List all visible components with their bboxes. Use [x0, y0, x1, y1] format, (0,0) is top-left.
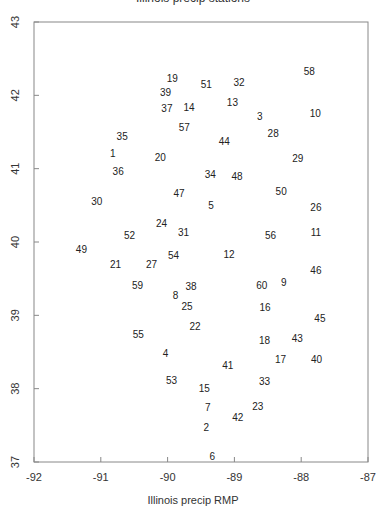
station-labels: 5819513239133714310572835441202936344847… — [76, 66, 326, 462]
station-label: 55 — [133, 329, 145, 340]
y-tick-label: 40 — [9, 236, 21, 248]
scatter-plot: -92-91-90-89-88-87 37383940414243 581951… — [0, 0, 386, 516]
station-label: 3 — [257, 111, 263, 122]
station-label: 46 — [310, 265, 322, 276]
station-label: 20 — [155, 152, 167, 163]
station-label: 52 — [124, 230, 136, 241]
station-label: 31 — [178, 227, 190, 238]
station-label: 30 — [91, 196, 103, 207]
station-label: 9 — [281, 277, 287, 288]
station-label: 40 — [311, 354, 323, 365]
station-label: 24 — [156, 218, 168, 229]
station-label: 53 — [166, 375, 178, 386]
y-tick-label: 39 — [9, 309, 21, 321]
station-label: 49 — [76, 244, 88, 255]
station-label: 59 — [132, 280, 144, 291]
station-label: 44 — [219, 136, 231, 147]
x-tick-label: -87 — [360, 471, 376, 483]
station-label: 41 — [222, 360, 234, 371]
station-label: 38 — [185, 281, 197, 292]
station-label: 8 — [173, 290, 179, 301]
station-label: 57 — [179, 122, 191, 133]
station-label: 1 — [110, 148, 116, 159]
station-label: 6 — [210, 451, 216, 462]
station-label: 45 — [314, 313, 326, 324]
station-label: 36 — [113, 166, 125, 177]
x-tick-label: -89 — [226, 471, 242, 483]
x-tick-label: -91 — [93, 471, 109, 483]
station-label: 14 — [183, 102, 195, 113]
station-label: 15 — [199, 383, 211, 394]
station-label: 42 — [232, 412, 244, 423]
x-tick-label: -88 — [293, 471, 309, 483]
station-label: 26 — [310, 202, 322, 213]
y-tick-label: 43 — [9, 16, 21, 28]
x-axis-label: Illinois precip RMP — [0, 494, 386, 506]
station-label: 33 — [259, 376, 271, 387]
station-label: 11 — [311, 227, 322, 238]
station-label: 56 — [265, 230, 277, 241]
station-label: 4 — [163, 348, 169, 359]
station-label: 48 — [232, 171, 244, 182]
station-label: 18 — [259, 335, 271, 346]
station-label: 51 — [201, 79, 213, 90]
station-label: 34 — [205, 169, 217, 180]
station-label: 54 — [168, 250, 180, 261]
x-tick-label: -90 — [160, 471, 176, 483]
station-label: 12 — [223, 249, 235, 260]
station-label: 22 — [189, 321, 201, 332]
y-tick-label: 38 — [9, 383, 21, 395]
station-label: 17 — [275, 354, 287, 365]
station-label: 21 — [110, 259, 122, 270]
station-label: 29 — [292, 153, 304, 164]
station-label: 58 — [304, 66, 316, 77]
x-tick-label: -92 — [26, 471, 42, 483]
station-label: 50 — [276, 186, 288, 197]
station-label: 10 — [310, 108, 322, 119]
station-label: 28 — [268, 128, 280, 139]
station-label: 5 — [208, 200, 214, 211]
y-tick-label: 42 — [9, 89, 21, 101]
station-label: 39 — [160, 87, 172, 98]
station-label: 16 — [260, 302, 272, 313]
station-label: 47 — [173, 188, 185, 199]
y-tick-label: 41 — [9, 163, 21, 175]
station-label: 43 — [292, 333, 304, 344]
station-label: 37 — [161, 103, 173, 114]
x-axis: -92-91-90-89-88-87 — [26, 457, 376, 483]
station-label: 27 — [146, 259, 158, 270]
station-label: 32 — [234, 77, 246, 88]
station-label: 19 — [167, 73, 179, 84]
station-label: 25 — [181, 301, 193, 312]
station-label: 35 — [117, 131, 129, 142]
station-label: 13 — [227, 97, 239, 108]
station-label: 23 — [252, 401, 264, 412]
station-label: 60 — [256, 280, 268, 291]
y-tick-label: 37 — [9, 456, 21, 468]
station-label: 7 — [205, 402, 211, 413]
station-label: 2 — [204, 422, 210, 433]
